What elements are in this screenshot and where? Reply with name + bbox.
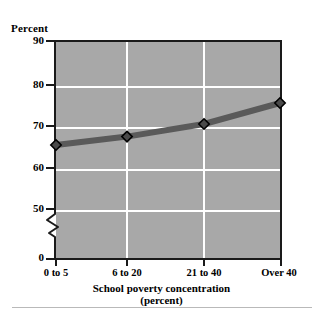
- y-tick-50: [46, 208, 55, 210]
- y-tick-label-80: 80: [33, 79, 44, 90]
- x-tick-label-6-to-20: 6 to 20: [112, 268, 142, 279]
- x-axis-title-line1: School poverty concentration: [93, 282, 230, 294]
- x-tick-label-21-to-40: 21 to 40: [187, 268, 222, 279]
- y-axis-title: Percent: [11, 22, 48, 34]
- x-tick-over-40: [280, 258, 282, 266]
- y-tick-0: [46, 258, 55, 260]
- x-axis-title: School poverty concentration (percent): [0, 282, 323, 306]
- y-tick-label-0: 0: [39, 252, 45, 263]
- x-tick-label-over-40: Over 40: [261, 268, 297, 279]
- bottom-divider-rule: [12, 307, 312, 308]
- y-tick-80: [46, 84, 55, 86]
- gridline-y-70: [56, 127, 280, 129]
- gridline-y-60: [56, 169, 280, 171]
- y-tick-label-60: 60: [33, 162, 44, 173]
- y-tick-label-70: 70: [33, 120, 44, 131]
- chart-figure: Percent 90 80 70 60 50 0 0 to 5 6 to 20 …: [0, 0, 323, 317]
- gridline-y-80: [56, 86, 280, 88]
- plot-area: [56, 40, 282, 260]
- y-axis-break-icon: [45, 208, 63, 242]
- y-tick-70: [46, 125, 55, 127]
- x-axis-title-line2: (percent): [0, 294, 323, 306]
- x-tick-label-0-to-5: 0 to 5: [44, 268, 69, 279]
- x-axis-line: [54, 258, 282, 260]
- gridline-x-6-to-20: [126, 42, 128, 260]
- y-tick-60: [46, 167, 55, 169]
- x-tick-21-to-40: [203, 258, 205, 266]
- y-tick-90: [46, 40, 55, 42]
- x-tick-6-to-20: [126, 258, 128, 266]
- gridline-y-50: [56, 210, 280, 212]
- gridline-x-21-to-40: [203, 42, 205, 260]
- x-tick-0-to-5: [55, 258, 57, 266]
- y-tick-label-50: 50: [33, 203, 44, 214]
- y-tick-label-90: 90: [33, 35, 44, 46]
